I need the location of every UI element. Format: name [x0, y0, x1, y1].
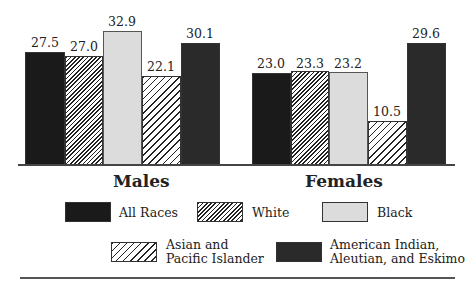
bar-males-asian	[142, 76, 181, 165]
legend-swatch-white	[197, 202, 243, 222]
legend-swatch-black	[322, 202, 368, 222]
legend-label-asian-l2: Pacific Islander	[166, 252, 264, 266]
bar-males-american-indian	[181, 43, 220, 165]
legend-label-all-races: All Races	[119, 206, 178, 220]
bar-females-all-races	[252, 73, 291, 165]
bottom-rule	[20, 277, 455, 279]
bar-males-black	[103, 31, 142, 165]
legend-label-black: Black	[377, 206, 412, 220]
value-label: 29.6	[406, 26, 446, 41]
bar-females-white	[291, 71, 329, 165]
value-label: 23.0	[251, 56, 291, 71]
legend-label-asian-l1: Asian and	[166, 238, 228, 252]
group-label-females: Females	[305, 171, 383, 191]
x-axis-males	[18, 164, 240, 166]
bar-females-american-indian	[407, 43, 446, 165]
legend-label-amind-l1: American Indian,	[330, 238, 439, 252]
value-label: 23.3	[290, 56, 330, 71]
value-label: 32.9	[102, 14, 142, 29]
legend-label-white: White	[252, 206, 289, 220]
bar-females-asian	[368, 121, 407, 165]
value-label: 22.1	[141, 59, 181, 74]
value-label: 30.1	[180, 26, 220, 41]
legend-swatch-asian	[111, 242, 157, 262]
value-label: 27.0	[64, 39, 104, 54]
x-axis-females	[236, 164, 455, 166]
value-label: 23.2	[328, 56, 368, 71]
bar-males-all-races	[25, 52, 65, 165]
legend-swatch-american-indian	[276, 242, 322, 262]
legend-label-amind-l2: Aleutian, and Eskimo	[330, 252, 465, 266]
bar-females-black	[329, 72, 368, 165]
bar-males-white	[65, 56, 103, 165]
value-label: 10.5	[367, 104, 407, 119]
group-label-males: Males	[113, 171, 170, 191]
legend-swatch-all-races	[65, 202, 111, 222]
value-label: 27.5	[25, 35, 65, 50]
